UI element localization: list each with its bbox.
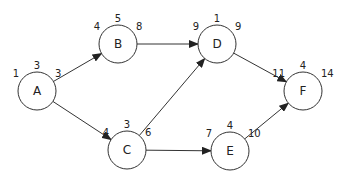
earliest-start-value: 7 [206,128,212,139]
earliest-start-value: 1 [13,68,19,79]
node-E: E4710 [206,120,261,170]
duration-value: 4 [227,120,233,131]
node-label: F [300,84,307,98]
node-label: C [123,143,131,157]
earliest-finish-value: 14 [321,68,334,79]
diagram-svg: A313B548C346D199E4710F41114 [0,0,346,182]
duration-value: 3 [124,119,130,130]
node-label: A [33,84,42,98]
earliest-finish-value: 6 [145,127,151,138]
node-label: B [114,37,122,51]
earliest-finish-value: 10 [248,128,261,139]
node-B: B548 [94,13,143,63]
earliest-finish-value: 3 [55,68,61,79]
node-C: C346 [103,119,152,169]
node-label: D [212,37,221,51]
duration-value: 3 [34,60,40,71]
earliest-start-value: 9 [193,21,199,32]
nodes-group: A313B548C346D199E4710F41114 [13,13,334,170]
earliest-start-value: 4 [94,21,100,32]
node-F: F41114 [272,60,333,110]
duration-value: 4 [300,60,306,71]
node-label: E [226,144,234,158]
earliest-finish-value: 8 [136,21,142,32]
edge-C-D [139,58,204,135]
earliest-start-value: 11 [272,68,285,79]
duration-value: 5 [115,13,121,24]
network-diagram: A313B548C346D199E4710F41114 [0,0,346,182]
node-D: D199 [193,13,242,63]
earliest-finish-value: 9 [235,21,241,32]
duration-value: 1 [214,13,220,24]
edge-C-E [146,150,211,151]
earliest-start-value: 4 [103,127,109,138]
